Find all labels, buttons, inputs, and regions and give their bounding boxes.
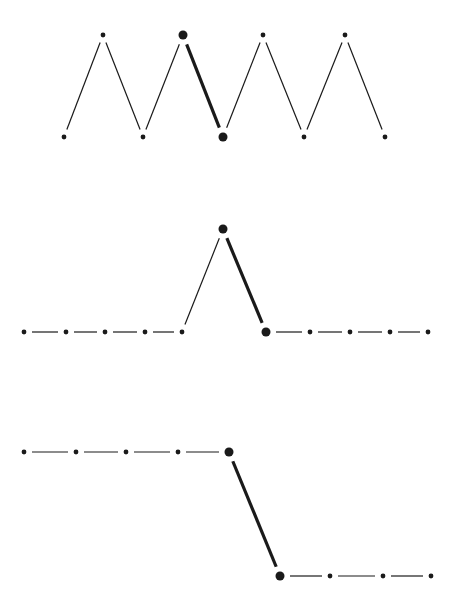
thin-segment — [307, 42, 342, 129]
node-dot — [381, 574, 386, 579]
node-dot — [141, 135, 146, 140]
large-node-dot — [179, 31, 188, 40]
thin-segment — [67, 42, 100, 129]
node-dot — [124, 450, 129, 455]
thin-segment — [106, 42, 140, 129]
node-dot — [426, 330, 431, 335]
node-dot — [388, 330, 393, 335]
thick-segment — [233, 461, 276, 567]
node-dot — [143, 330, 148, 335]
large-node-dot — [262, 328, 271, 337]
large-node-dot — [219, 133, 228, 142]
node-dot — [22, 330, 27, 335]
node-dot — [348, 330, 353, 335]
diagram-canvas — [0, 0, 453, 610]
large-node-dot — [219, 225, 228, 234]
thick-segment — [227, 238, 262, 323]
thin-segment — [146, 44, 179, 129]
node-dot — [429, 574, 434, 579]
node-dot — [176, 450, 181, 455]
node-dot — [64, 330, 69, 335]
node-dot — [308, 330, 313, 335]
single-peak-panel — [22, 225, 431, 337]
node-dot — [22, 450, 27, 455]
node-dot — [261, 33, 266, 38]
node-dot — [103, 330, 108, 335]
thin-segment — [348, 42, 382, 129]
node-dot — [62, 135, 67, 140]
node-dot — [328, 574, 333, 579]
node-dot — [302, 135, 307, 140]
node-dot — [343, 33, 348, 38]
node-dot — [101, 33, 106, 38]
node-dot — [383, 135, 388, 140]
thin-segment — [266, 42, 301, 129]
node-dot — [180, 330, 185, 335]
step-down-panel — [22, 448, 434, 581]
node-dot — [74, 450, 79, 455]
zigzag-panel — [62, 31, 388, 142]
thin-segment — [227, 42, 260, 127]
large-node-dot — [225, 448, 234, 457]
thick-segment — [187, 44, 220, 127]
thin-segment — [185, 238, 219, 324]
large-node-dot — [276, 572, 285, 581]
